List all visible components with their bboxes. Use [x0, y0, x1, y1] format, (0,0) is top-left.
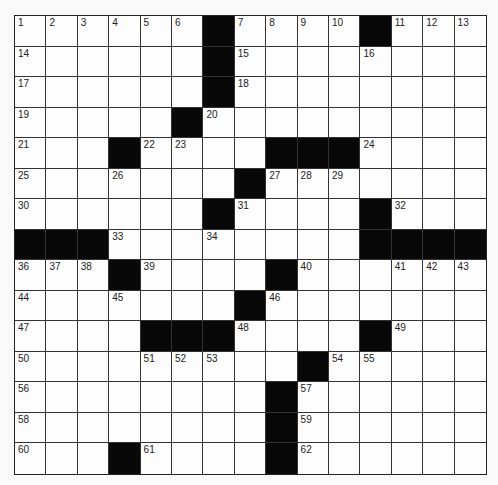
crossword-cell[interactable] [78, 291, 109, 322]
crossword-cell[interactable] [235, 108, 266, 139]
crossword-cell[interactable] [46, 169, 77, 200]
crossword-cell[interactable] [329, 199, 360, 230]
crossword-cell[interactable]: 15 [235, 47, 266, 78]
crossword-cell[interactable] [235, 443, 266, 474]
crossword-cell[interactable] [298, 47, 329, 78]
crossword-cell[interactable] [423, 443, 454, 474]
crossword-cell[interactable] [266, 47, 297, 78]
crossword-cell[interactable] [392, 47, 423, 78]
crossword-cell[interactable] [455, 352, 486, 383]
crossword-cell[interactable] [360, 413, 391, 444]
crossword-cell[interactable] [172, 47, 203, 78]
crossword-cell[interactable]: 14 [15, 47, 46, 78]
crossword-cell[interactable] [141, 169, 172, 200]
crossword-cell[interactable] [298, 291, 329, 322]
crossword-cell[interactable] [329, 260, 360, 291]
crossword-cell[interactable]: 5 [141, 16, 172, 47]
crossword-cell[interactable]: 8 [266, 16, 297, 47]
crossword-cell[interactable]: 59 [298, 413, 329, 444]
crossword-cell[interactable]: 22 [141, 138, 172, 169]
crossword-cell[interactable] [423, 138, 454, 169]
crossword-cell[interactable] [141, 413, 172, 444]
crossword-cell[interactable]: 47 [15, 321, 46, 352]
crossword-cell[interactable] [172, 230, 203, 261]
crossword-cell[interactable]: 48 [235, 321, 266, 352]
crossword-cell[interactable]: 54 [329, 352, 360, 383]
crossword-cell[interactable] [329, 321, 360, 352]
crossword-cell[interactable] [266, 108, 297, 139]
crossword-cell[interactable] [141, 47, 172, 78]
crossword-cell[interactable] [46, 321, 77, 352]
crossword-cell[interactable] [235, 352, 266, 383]
crossword-cell[interactable]: 18 [235, 77, 266, 108]
crossword-cell[interactable] [360, 382, 391, 413]
crossword-cell[interactable] [455, 47, 486, 78]
crossword-cell[interactable] [78, 382, 109, 413]
crossword-cell[interactable]: 53 [203, 352, 234, 383]
crossword-cell[interactable]: 17 [15, 77, 46, 108]
crossword-cell[interactable] [78, 199, 109, 230]
crossword-cell[interactable]: 42 [423, 260, 454, 291]
crossword-cell[interactable] [423, 108, 454, 139]
crossword-cell[interactable] [329, 230, 360, 261]
crossword-cell[interactable] [455, 77, 486, 108]
crossword-cell[interactable]: 60 [15, 443, 46, 474]
crossword-cell[interactable] [235, 138, 266, 169]
crossword-cell[interactable]: 2 [46, 16, 77, 47]
crossword-cell[interactable]: 51 [141, 352, 172, 383]
crossword-cell[interactable] [423, 77, 454, 108]
crossword-cell[interactable] [78, 77, 109, 108]
crossword-cell[interactable]: 46 [266, 291, 297, 322]
crossword-cell[interactable]: 21 [15, 138, 46, 169]
crossword-cell[interactable] [141, 291, 172, 322]
crossword-cell[interactable]: 12 [423, 16, 454, 47]
crossword-cell[interactable] [172, 443, 203, 474]
crossword-cell[interactable] [423, 352, 454, 383]
crossword-cell[interactable] [266, 199, 297, 230]
crossword-cell[interactable] [141, 108, 172, 139]
crossword-cell[interactable] [329, 443, 360, 474]
crossword-cell[interactable] [455, 169, 486, 200]
crossword-cell[interactable] [423, 291, 454, 322]
crossword-cell[interactable] [455, 382, 486, 413]
crossword-cell[interactable]: 19 [15, 108, 46, 139]
crossword-cell[interactable] [203, 138, 234, 169]
crossword-cell[interactable]: 38 [78, 260, 109, 291]
crossword-cell[interactable] [360, 77, 391, 108]
crossword-cell[interactable]: 24 [360, 138, 391, 169]
crossword-cell[interactable] [78, 413, 109, 444]
crossword-cell[interactable]: 3 [78, 16, 109, 47]
crossword-cell[interactable] [392, 413, 423, 444]
crossword-cell[interactable] [360, 291, 391, 322]
crossword-cell[interactable]: 56 [15, 382, 46, 413]
crossword-cell[interactable]: 31 [235, 199, 266, 230]
crossword-cell[interactable] [392, 77, 423, 108]
crossword-cell[interactable] [46, 199, 77, 230]
crossword-cell[interactable]: 7 [235, 16, 266, 47]
crossword-cell[interactable]: 29 [329, 169, 360, 200]
crossword-cell[interactable] [329, 291, 360, 322]
crossword-cell[interactable] [423, 382, 454, 413]
crossword-cell[interactable] [46, 382, 77, 413]
crossword-cell[interactable] [78, 169, 109, 200]
crossword-cell[interactable]: 44 [15, 291, 46, 322]
crossword-cell[interactable] [141, 77, 172, 108]
crossword-cell[interactable] [109, 352, 140, 383]
crossword-cell[interactable] [78, 47, 109, 78]
crossword-cell[interactable] [46, 413, 77, 444]
crossword-cell[interactable] [423, 199, 454, 230]
crossword-cell[interactable]: 43 [455, 260, 486, 291]
crossword-cell[interactable] [298, 230, 329, 261]
crossword-cell[interactable] [329, 47, 360, 78]
crossword-cell[interactable] [392, 138, 423, 169]
crossword-cell[interactable] [455, 199, 486, 230]
crossword-cell[interactable] [455, 138, 486, 169]
crossword-cell[interactable] [266, 230, 297, 261]
crossword-cell[interactable] [423, 47, 454, 78]
crossword-cell[interactable]: 26 [109, 169, 140, 200]
crossword-cell[interactable] [46, 138, 77, 169]
crossword-cell[interactable] [109, 382, 140, 413]
crossword-cell[interactable] [78, 443, 109, 474]
crossword-cell[interactable]: 61 [141, 443, 172, 474]
crossword-cell[interactable]: 36 [15, 260, 46, 291]
